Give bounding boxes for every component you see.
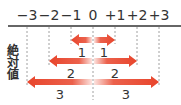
abs-value-left-label: 3 [56,88,64,102]
absolute-value-diagram: −3−2−10+1+2+3 112233 絶対値 [0,0,181,105]
vertical-title: 絶対値 [3,44,17,80]
tick-label: +1 [105,7,126,23]
abs-value-right-label: 3 [122,88,130,102]
abs-value-left-label: 1 [78,46,86,60]
dashed-guides [27,27,159,100]
tick-label: 0 [89,7,98,23]
tick-label: +3 [149,7,170,23]
abs-value-right-label: 1 [100,46,108,60]
tick-label: −2 [39,7,60,23]
tick-label: −1 [61,7,82,23]
tick-label: +2 [127,7,148,23]
abs-value-left-label: 2 [67,67,75,81]
abs-value-right-label: 2 [111,67,119,81]
tick-label: −3 [17,7,38,23]
